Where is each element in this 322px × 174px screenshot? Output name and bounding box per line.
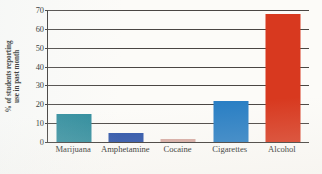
y-axis-tick-label: 40 <box>36 62 44 71</box>
bar-slot <box>152 10 204 142</box>
y-axis-tick-label: 60 <box>36 24 44 33</box>
bar-series <box>48 10 309 142</box>
y-axis-tick-label: 10 <box>36 119 44 128</box>
bar-marijuana[interactable] <box>57 114 92 142</box>
bar-cigarettes[interactable] <box>213 101 248 142</box>
bar-slot <box>48 10 100 142</box>
x-axis-label-marijuana: Marijuana <box>55 144 90 154</box>
bar-slot <box>205 10 257 142</box>
bar-alcohol[interactable] <box>265 14 300 142</box>
x-axis-label-alcohol: Alcohol <box>268 144 296 154</box>
y-axis-tick-label: 70 <box>36 6 44 15</box>
bar-cocaine[interactable] <box>161 139 196 142</box>
axis-baseline <box>48 142 309 143</box>
y-axis-tick-label: 30 <box>36 81 44 90</box>
bar-chart-figure: % of students reporting use in past mont… <box>0 0 322 174</box>
x-axis-label-cigarettes: Cigarettes <box>212 144 247 154</box>
x-axis-category-labels: MarijuanaAmphetamineCocaineCigarettesAlc… <box>47 144 308 160</box>
y-axis-tick-label: 20 <box>36 100 44 109</box>
y-axis-tick-labels: 010203040506070 <box>26 0 47 152</box>
y-axis-title-line1: % of students reporting <box>5 40 13 112</box>
y-axis-tick-mark <box>45 142 49 143</box>
plot-area <box>47 10 308 142</box>
y-axis-tick-label: 0 <box>40 138 44 147</box>
bar-slot <box>100 10 152 142</box>
x-axis-label-amphetamine: Amphetamine <box>101 144 150 154</box>
y-axis-title-text: % of students reporting use in past mont… <box>5 40 22 112</box>
y-axis-title-line2: use in past month <box>13 40 21 112</box>
y-axis-tick-label: 50 <box>36 43 44 52</box>
bar-amphetamine[interactable] <box>109 133 144 142</box>
x-axis-label-cocaine: Cocaine <box>163 144 191 154</box>
y-axis-title: % of students reporting use in past mont… <box>0 0 26 152</box>
bar-slot <box>257 10 309 142</box>
